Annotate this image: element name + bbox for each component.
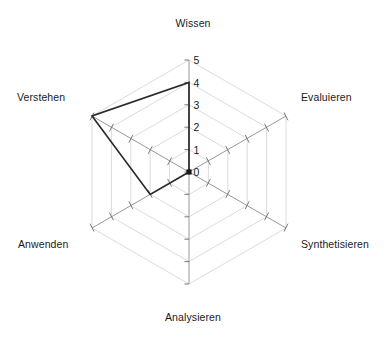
tick-label-5: 5 — [194, 54, 200, 66]
tick-label-4: 4 — [194, 77, 200, 89]
tick-label-2: 2 — [194, 121, 200, 133]
tick-label-0: 0 — [194, 166, 200, 178]
spoke-synthetisieren — [189, 172, 286, 228]
data-series-polygon — [92, 82, 189, 194]
spoke-verstehen — [92, 116, 189, 172]
axis-label-evaluieren: Evaluieren — [301, 91, 352, 103]
axis-label-analysieren: Analysieren — [165, 311, 221, 323]
tick-label-3: 3 — [194, 99, 200, 111]
radar-chart: 0 1 2 3 4 5 Wissen Evaluieren Synthetisi… — [0, 0, 386, 339]
axis-label-synthetisieren: Synthetisieren — [301, 238, 369, 250]
axis-label-wissen: Wissen — [175, 17, 210, 29]
radar-chart-canvas: 0 1 2 3 4 5 — [0, 0, 386, 339]
axis-label-anwenden: Anwenden — [18, 238, 68, 250]
spoke-evaluieren — [189, 116, 286, 172]
tick-label-1: 1 — [194, 144, 200, 156]
axis-label-verstehen: Verstehen — [17, 91, 65, 103]
center-marker — [186, 169, 191, 174]
